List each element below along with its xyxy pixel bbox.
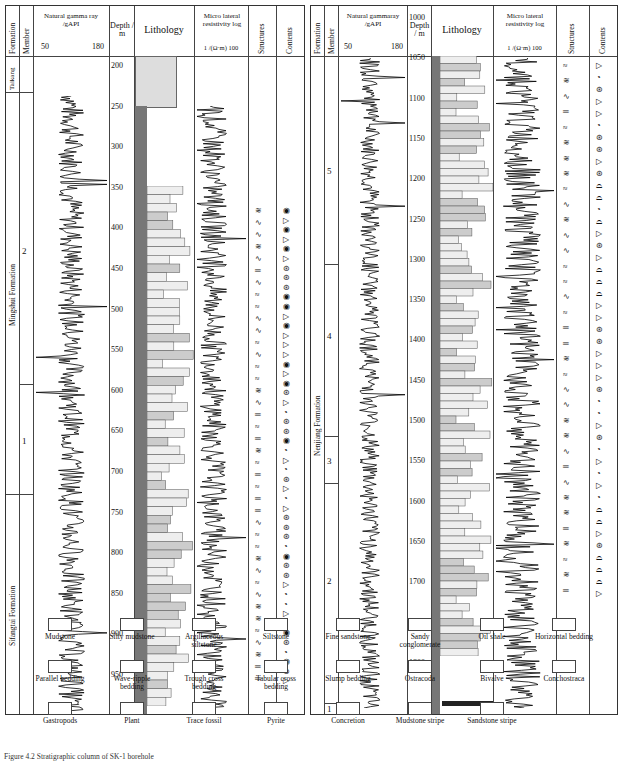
symbol-icon: ⊛ [596, 541, 603, 550]
depth-tick: 650 [111, 427, 123, 435]
depth-tick: 1050 [409, 54, 425, 62]
tabular-cross-icon [264, 660, 288, 673]
depth-tick: 1200 [409, 175, 425, 183]
symbol-icon: ⊛ [596, 241, 603, 250]
symbol-icon: ⌓ [596, 553, 602, 563]
symbol-icon: ⌓ [596, 517, 602, 527]
symbol-icon: ≈ [563, 277, 567, 286]
symbol-icon: ▷ [283, 235, 289, 244]
legend-label: Sandy conglomerate [390, 633, 450, 649]
symbol-icon: ▷ [596, 361, 602, 370]
symbol-icon: ≈ [255, 374, 259, 383]
gastropod-icon [48, 702, 72, 715]
header-contents: Contents [285, 10, 294, 54]
symbol-icon: ≋ [563, 431, 570, 440]
depth-ticks: 2002503003504004505005506006507007508008… [110, 56, 134, 714]
slump-bedding-icon [336, 660, 360, 673]
symbol-icon: ⌓ [596, 217, 602, 227]
symbol-icon: ▷ [596, 457, 602, 466]
fine-sandstone-pattern [336, 618, 360, 631]
resistivity-unit: 1 /(Ω·m) 100 [194, 44, 248, 52]
depth-tick: 1500 [409, 417, 425, 425]
horizontal-bedding-icon [552, 618, 576, 631]
symbol-icon: ∿ [255, 590, 262, 599]
depth-tick: 600 [111, 387, 123, 395]
depth-tick: 750 [111, 509, 123, 517]
symbol-icon: ▷ [283, 456, 289, 465]
symbol-icon: ◉ [283, 302, 290, 311]
depth-tick: 1350 [409, 296, 425, 304]
depth-tick: 550 [111, 346, 123, 354]
depth-tick: 1650 [409, 538, 425, 546]
symbol-icon: ∿ [255, 230, 262, 239]
legend-item: Wave-ripple bedding [102, 660, 162, 691]
symbol-icon: ▷ [596, 349, 602, 358]
symbol-icon: ∿ [255, 398, 262, 407]
symbol-icon: ⊛ [596, 169, 603, 178]
symbol-icon: ═ [563, 462, 569, 471]
symbol-icon: ≋ [563, 76, 570, 85]
symbol-icon: ⌓ [596, 181, 602, 191]
mudstone-pattern [48, 618, 72, 631]
symbol-icon: ▷ [283, 216, 289, 225]
symbol-icon: ∿ [255, 326, 262, 335]
symbol-icon: ◉ [283, 206, 290, 215]
symbol-icon: ◔ [283, 408, 288, 417]
formation-taikang: Taikang [8, 62, 16, 90]
symbol-icon: ═ [563, 339, 569, 348]
member-3: 3 [327, 456, 332, 466]
symbol-icon: ∿ [563, 92, 570, 101]
symbol-icon: ≈ [563, 308, 567, 317]
symbol-icon: ◉ [283, 244, 290, 253]
symbol-icon: ≋ [563, 169, 570, 178]
symbol-icon: ⊛ [596, 325, 603, 334]
depth-tick: 400 [111, 224, 123, 232]
symbol-icon: ⌓ [596, 577, 602, 587]
header-member-right: Member [327, 10, 336, 54]
header-gamma-right: Natural gammaray /gAPI [341, 12, 405, 28]
header-formation-right: Formation [313, 10, 322, 54]
symbol-icon: ⊛ [283, 571, 290, 580]
symbol-icon: ▷ [283, 350, 289, 359]
symbol-icon: ▷ [596, 589, 602, 598]
legend-item: Oil shale [462, 618, 522, 641]
legend-item: Parallel bedding [30, 660, 90, 683]
header-structures-right: Structures [567, 10, 576, 54]
symbol-icon: ◔ [596, 493, 601, 502]
symbol-icon: ≈ [255, 458, 259, 467]
lithology-column [135, 56, 194, 714]
legend-item: Concretion [318, 702, 378, 725]
sandstone-stripe-icon [480, 702, 504, 715]
symbol-icon: ∿ [255, 278, 262, 287]
header-member: Member [22, 10, 31, 54]
symbol-icon: ═ [255, 410, 261, 419]
symbol-icon: ≋ [563, 508, 570, 517]
symbol-icon: ▷ [596, 61, 602, 70]
symbol-icon: ≋ [255, 206, 262, 215]
legend-label: Oil shale [462, 633, 522, 641]
symbol-icon: ▷ [596, 313, 602, 322]
member-1: 1 [22, 436, 27, 446]
symbol-icon: ◉ [283, 552, 290, 561]
symbol-icon: ≈ [255, 530, 259, 539]
symbol-icon: ═ [255, 470, 261, 479]
symbol-icon: ∿ [255, 254, 262, 263]
symbol-icon: ▷ [596, 229, 602, 238]
oil-shale-pattern [480, 618, 504, 631]
symbol-icon: ≋ [255, 386, 262, 395]
argillaceous-siltstone-pattern [192, 618, 216, 631]
symbol-icon: ⊛ [283, 513, 290, 522]
header-structures: Structures [257, 10, 266, 54]
legend-item: Ostracoda [390, 660, 450, 683]
legend-label: Mudstone [30, 633, 90, 641]
mudstone-stripe-icon [408, 702, 432, 715]
symbol-icon: ◉ [283, 379, 290, 388]
symbol-icon: ⊛ [283, 561, 290, 570]
member-5: 5 [327, 166, 332, 176]
legend-item: Mudstone stripe [390, 702, 450, 725]
symbol-icon: ═ [255, 506, 261, 515]
symbol-icon: ⊛ [283, 427, 290, 436]
legend-item: Argillaceous siltstone [174, 618, 234, 649]
symbol-icon: ≈ [563, 184, 567, 193]
legend-label: Trough cross bedding [174, 675, 234, 691]
